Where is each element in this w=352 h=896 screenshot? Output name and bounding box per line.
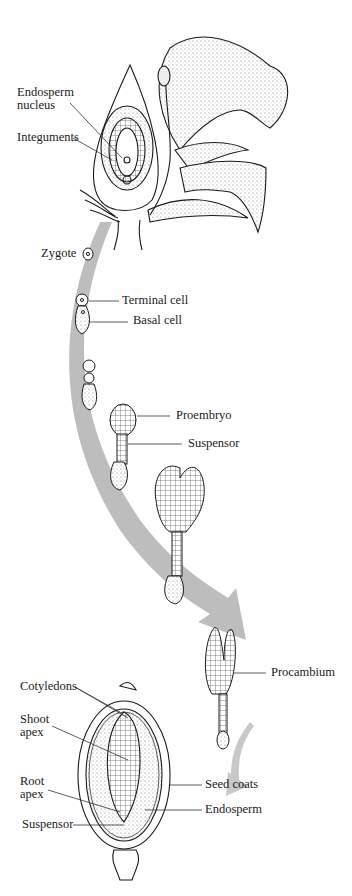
- label-endosperm-nucleus: Endosperm nucleus: [17, 86, 74, 112]
- label-integuments: Integuments: [17, 131, 79, 144]
- label-cotyledons: Cotyledons: [20, 680, 77, 693]
- two-cell-embryo: [75, 294, 89, 334]
- label-terminal-cell: Terminal cell: [122, 294, 188, 307]
- mature-seed-illustration: [78, 683, 170, 880]
- four-cell-embryo: [82, 360, 97, 410]
- label-shoot-apex: Shoot apex: [20, 713, 49, 739]
- zygote-illustration: [83, 248, 93, 260]
- label-seed-coats: Seed coats: [205, 778, 258, 791]
- label-procambium: Procambium: [271, 666, 335, 679]
- label-suspensor-top: Suspensor: [188, 437, 239, 450]
- label-endosperm: Endosperm: [205, 803, 262, 816]
- label-basal-cell: Basal cell: [133, 314, 182, 327]
- label-zygote: Zygote: [41, 247, 76, 260]
- label-proembryo: Proembryo: [176, 409, 232, 422]
- label-suspensor-bottom: Suspensor: [22, 818, 73, 831]
- flower-illustration: [80, 37, 288, 250]
- label-line-2: apex: [20, 726, 49, 739]
- label-root-apex: Root apex: [20, 775, 44, 801]
- label-line-2: nucleus: [17, 99, 74, 112]
- torpedo-stage-embryo: [205, 628, 235, 749]
- label-line-2: apex: [20, 788, 44, 801]
- proembryo-illustration: [110, 404, 136, 490]
